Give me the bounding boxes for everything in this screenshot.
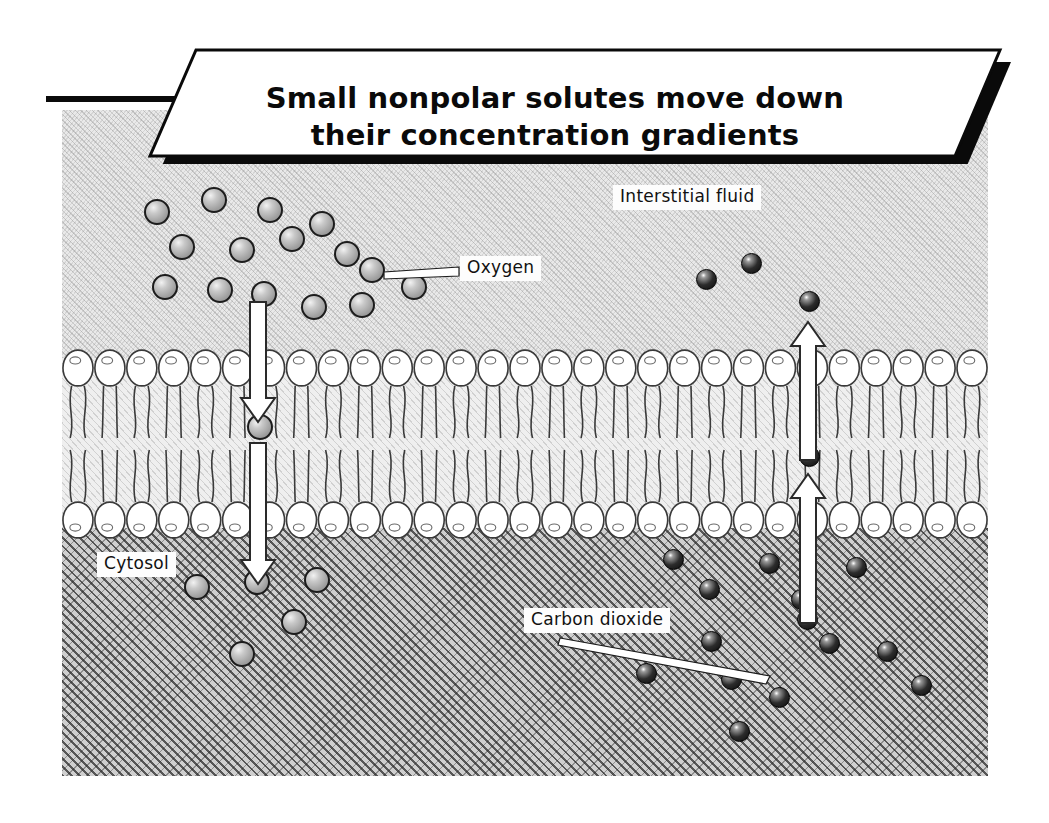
carbon-dioxide-molecule [721,669,742,690]
carbon-dioxide-molecule [701,631,722,652]
title-line-2: their concentration gradients [175,117,935,154]
carbon-dioxide-molecule [791,589,812,610]
phospholipid-bilayer [62,344,988,544]
title-line-1: Small nonpolar solutes move down [175,80,935,117]
carbon-dioxide-molecule [877,641,898,662]
title-banner: Small nonpolar solutes move down their c… [0,34,1049,164]
oxygen-molecule [229,641,255,667]
carbon-dioxide-molecule-in-membrane [799,446,820,467]
carbon-dioxide-molecule [911,675,932,696]
oxygen-molecule [201,187,227,213]
oxygen-molecule [244,569,270,595]
oxygen-molecule [334,241,360,267]
oxygen-label: Oxygen [460,256,541,281]
oxygen-molecule [207,277,233,303]
carbon-dioxide-molecule [759,553,780,574]
carbon-dioxide-molecule [636,663,657,684]
oxygen-molecule [359,257,385,283]
oxygen-molecule [144,199,170,225]
oxygen-molecule [229,237,255,263]
oxygen-molecule [281,609,307,635]
oxygen-molecule [349,292,375,318]
carbon-dioxide-label: Carbon dioxide [524,608,670,633]
oxygen-molecule [184,574,210,600]
oxygen-molecule [309,211,335,237]
carbon-dioxide-molecule [846,557,867,578]
carbon-dioxide-molecule [696,269,717,290]
interstitial-fluid-label: Interstitial fluid [613,185,761,210]
carbon-dioxide-molecule [769,687,790,708]
carbon-dioxide-molecule [797,609,818,630]
carbon-dioxide-molecule [819,633,840,654]
diffusion-diagram: Interstitial fluid Cytosol Oxygen Carbon… [0,0,1049,823]
oxygen-molecule [401,274,427,300]
oxygen-molecule [301,294,327,320]
carbon-dioxide-molecule [663,549,684,570]
oxygen-molecule [152,274,178,300]
carbon-dioxide-molecule [741,253,762,274]
carbon-dioxide-molecule [699,579,720,600]
oxygen-molecule [169,234,195,260]
banner-title-text: Small nonpolar solutes move down their c… [175,80,935,154]
oxygen-molecule-in-membrane [247,414,273,440]
oxygen-molecule [304,567,330,593]
carbon-dioxide-molecule [799,291,820,312]
oxygen-molecule [251,281,277,307]
oxygen-molecule [279,226,305,252]
carbon-dioxide-molecule [729,721,750,742]
cytosol-label: Cytosol [97,552,176,577]
oxygen-molecule [257,197,283,223]
